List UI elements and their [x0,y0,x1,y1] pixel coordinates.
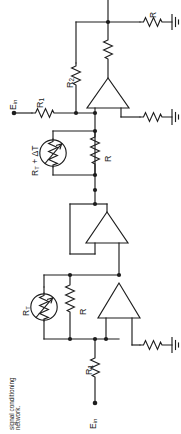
ground-symbol-2 [172,110,179,125]
terminal-dot-ein-bottom [93,401,98,406]
wire-follower-feedback [70,190,95,254]
junction-dot [104,337,108,341]
label-r2: R2 [66,78,76,88]
wire-bridge-bottom-top-rail [44,275,119,287]
label-resistor-bridge-top: R [104,156,113,163]
resistor-top-right [140,18,172,27]
figure-caption: signal conditioning network. [9,377,22,430]
ground-symbol-3 [172,338,179,353]
op-amp-a3 [98,283,140,318]
label-resistor-top-right: R [149,12,158,18]
resistor-feedback [104,22,113,78]
label-r1-top: R1 [36,98,46,108]
op-amp-a2-leads [95,204,119,275]
op-amp-a1-leads [95,108,140,117]
resistor-bridge-bottom [66,275,75,339]
terminal-dot-ein-top [12,111,17,116]
label-thermistor-rt-plus-dt: RT + ΔT [31,146,41,176]
thermistor-rt [31,293,57,321]
op-amp-a2 [86,212,128,243]
label-ein-bottom: Ein [89,419,99,429]
label-r1-bottom: R1 [85,365,95,375]
thermistor-rt-plus-dt [40,139,66,167]
junction-dot [68,337,72,341]
resistor-r1-top [32,109,95,118]
wire-thermistor-top-leg [53,131,95,175]
figure-canvas: R R2 Ein R1 RT + ΔT R RT R R1 Ein signal… [0,0,181,434]
ground-symbol-1 [172,15,179,30]
resistor-noninverting-top [140,113,172,122]
label-thermistor-rt: RT [22,306,32,316]
op-amp-a1 [87,78,129,108]
label-resistor-bridge-bottom: R [79,309,88,316]
label-ein-top: Ein [9,100,19,110]
op-amp-a3-leads [106,318,140,345]
resistor-noninverting-bottom [140,341,172,350]
junction-dot [74,111,78,115]
resistor-bridge-top [91,131,100,175]
